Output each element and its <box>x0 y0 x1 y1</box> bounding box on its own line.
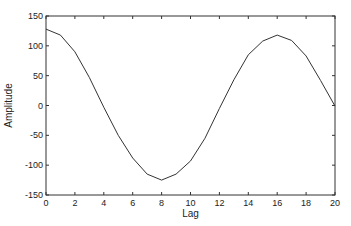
x-tick-label: 14 <box>243 198 253 208</box>
y-tick-label: 50 <box>33 71 43 81</box>
x-tick-label: 12 <box>214 198 224 208</box>
line-chart: 150100500-50-100-150 02468101214161820 L… <box>0 0 351 226</box>
y-tick-label: -150 <box>25 190 43 200</box>
x-tick-label: 2 <box>72 198 77 208</box>
plot-area <box>46 16 335 195</box>
x-tick-label: 8 <box>159 198 164 208</box>
x-tick-label: 16 <box>272 198 282 208</box>
y-tick-label: 0 <box>38 101 43 111</box>
y-axis-label: Amplitude <box>3 83 14 128</box>
x-tick-label: 20 <box>330 198 340 208</box>
x-tick-label: 6 <box>130 198 135 208</box>
x-axis-label: Lag <box>182 208 199 219</box>
x-tick-label: 0 <box>43 198 48 208</box>
x-tick-label: 10 <box>185 198 195 208</box>
y-tick-label: -100 <box>25 160 43 170</box>
x-tick-label: 18 <box>301 198 311 208</box>
y-tick-label: 150 <box>28 11 43 21</box>
y-tick-label: -50 <box>30 130 43 140</box>
y-tick-label: 100 <box>28 41 43 51</box>
x-tick-label: 4 <box>101 198 106 208</box>
